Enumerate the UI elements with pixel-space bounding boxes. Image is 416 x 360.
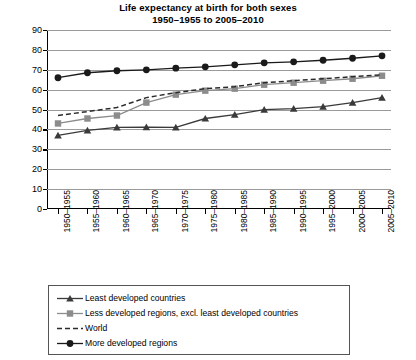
legend-item[interactable]: More developed regions (55, 336, 349, 351)
x-axis-tick-label: 1995–2000 (327, 190, 337, 233)
x-axis-tick-label: 1950–1955 (62, 190, 72, 233)
x-axis-tick (294, 209, 295, 214)
chart-subtitle: 1950–1955 to 2005–2010 (0, 14, 416, 26)
legend-item[interactable]: Least developed countries (55, 291, 349, 306)
data-point-marker (67, 340, 74, 347)
series-line (58, 75, 382, 116)
x-axis-tick (117, 209, 118, 214)
series-line (58, 56, 382, 78)
x-axis-tick (58, 209, 59, 214)
x-axis-tick-label: 1990–1995 (298, 190, 308, 233)
data-point-marker (172, 65, 179, 72)
x-axis-tick (146, 209, 147, 214)
x-axis-tick (323, 209, 324, 214)
x-axis-tick-label: 1970–1975 (180, 190, 190, 233)
data-point-marker (55, 120, 61, 126)
chart-container: Life expectancy at birth for both sexes … (0, 0, 416, 360)
y-axis-tick-label: 90 (32, 26, 42, 35)
legend-label: World (85, 321, 107, 336)
x-axis-tick-label: 1955–1960 (91, 190, 101, 233)
plot-area: 0102030405060708090 (47, 30, 391, 209)
x-axis-tick (205, 209, 206, 214)
x-axis-tick (87, 209, 88, 214)
y-axis-tick (43, 209, 47, 210)
data-point-marker (349, 55, 356, 62)
x-axis-tick (382, 209, 383, 214)
legend-label: Less developed regions, excl. least deve… (85, 306, 298, 321)
x-axis-tick-label: 2000–2005 (357, 190, 367, 233)
data-point-marker (114, 112, 120, 118)
legend-marker-icon (55, 336, 85, 351)
legend-item[interactable]: Less developed regions, excl. least deve… (55, 306, 349, 321)
y-axis-tick-label: 60 (32, 85, 42, 94)
x-axis-tick (353, 209, 354, 214)
data-point-marker (378, 94, 386, 101)
legend-item[interactable]: World (55, 321, 349, 336)
data-point-marker (114, 67, 121, 74)
data-point-marker (379, 73, 385, 79)
x-axis-tick-label: 1980–1985 (239, 190, 249, 233)
legend-marker-icon (55, 321, 85, 336)
x-axis-tick (235, 209, 236, 214)
page-title: Life expectancy at birth for both sexes (0, 2, 416, 14)
data-point-marker (143, 99, 149, 105)
y-axis-tick-label: 30 (32, 145, 42, 154)
x-axis-tick-label: 2005–2010 (386, 190, 396, 233)
y-axis-tick-label: 10 (32, 185, 42, 194)
chart-legend: Least developed countriesLess developed … (48, 285, 350, 355)
y-axis-tick-label: 0 (37, 205, 42, 214)
data-point-marker (261, 59, 268, 66)
data-point-marker (290, 58, 297, 65)
x-axis-tick (264, 209, 265, 214)
y-axis-tick-label: 70 (32, 65, 42, 74)
y-axis-tick-label: 40 (32, 125, 42, 134)
x-axis-tick-label: 1975–1980 (209, 190, 219, 233)
data-series-layer (47, 30, 391, 209)
data-point-marker (55, 74, 62, 81)
data-point-marker (379, 52, 386, 59)
data-point-marker (231, 61, 238, 68)
data-point-marker (67, 310, 73, 316)
y-axis-tick-label: 20 (32, 165, 42, 174)
x-axis-tick-label: 1965–1970 (150, 190, 160, 233)
legend-label: Least developed countries (85, 291, 185, 306)
x-axis-tick-label: 1960–1965 (121, 190, 131, 233)
chart-title-block: Life expectancy at birth for both sexes … (0, 2, 416, 26)
data-point-marker (143, 66, 150, 73)
data-point-marker (320, 57, 327, 64)
x-axis-tick-label: 1985–1990 (268, 190, 278, 233)
x-axis-tick (176, 209, 177, 214)
legend-marker-icon (55, 306, 85, 321)
y-axis-tick-label: 80 (32, 45, 42, 54)
data-point-marker (84, 115, 90, 121)
data-point-marker (84, 69, 91, 76)
legend-label: More developed regions (85, 336, 177, 351)
data-point-marker (202, 63, 209, 70)
legend-marker-icon (55, 291, 85, 306)
y-axis-tick-label: 50 (32, 105, 42, 114)
